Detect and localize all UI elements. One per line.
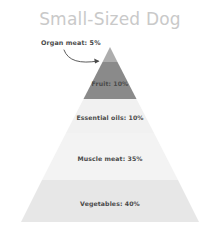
tier-label-vegetables: Vegetables: 40% (80, 200, 140, 208)
pyramid-chart: Fruit: 10% Essential oils: 10% Muscle me… (0, 0, 220, 234)
tier-label-muscle-meat: Muscle meat: 35% (77, 155, 142, 162)
callout-label-organ-meat: Organ meat: 5% (41, 39, 101, 47)
pyramid-tier-organ-meat[interactable] (103, 47, 118, 62)
tier-label-fruit: Fruit: 10% (92, 80, 129, 87)
arrow-head-icon (94, 59, 99, 64)
food-pyramid-infographic: Small-Sized Dog Fruit: 10% Essential oil… (0, 0, 220, 234)
curved-arrow-icon (64, 50, 98, 62)
tier-label-essential-oils: Essential oils: 10% (76, 114, 143, 121)
